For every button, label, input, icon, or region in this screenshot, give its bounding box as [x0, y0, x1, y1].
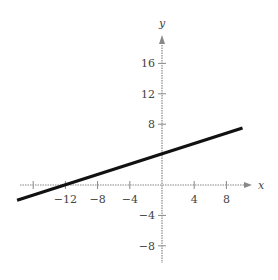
- x-tick-label: −8: [89, 193, 105, 206]
- y-tick-label: −8: [139, 240, 155, 253]
- data-line: [17, 128, 242, 200]
- x-axis-arrow-icon: [244, 182, 252, 188]
- line-chart: xy−12−8−44816128−4−8: [0, 0, 278, 280]
- y-tick-label: 8: [148, 118, 155, 131]
- y-tick-label: 12: [141, 88, 155, 101]
- y-axis-label: y: [158, 17, 166, 30]
- y-tick-label: 16: [141, 57, 155, 70]
- y-axis-arrow-icon: [159, 35, 165, 44]
- x-axis-label: x: [258, 179, 265, 192]
- x-tick-label: 4: [191, 193, 198, 206]
- x-tick-label: −4: [122, 193, 138, 206]
- y-tick-label: −4: [139, 209, 155, 222]
- x-tick-label: −12: [54, 193, 77, 206]
- x-tick-label: 8: [223, 193, 230, 206]
